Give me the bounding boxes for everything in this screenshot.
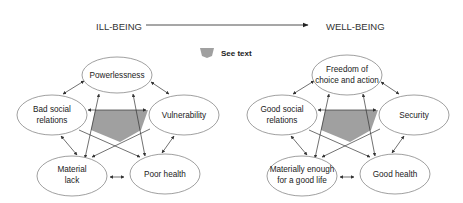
node-materially-enough-line2: for a good life <box>277 176 327 185</box>
node-good-social-line2: relations <box>267 116 298 125</box>
node-freedom-line2: choice and action <box>315 76 379 85</box>
node-poor-health: Poor health <box>144 170 186 179</box>
ill-being-group: Powerlessness Bad social relations Vulne… <box>17 57 219 196</box>
pentagon-swatch-icon <box>200 48 214 58</box>
node-bad-social-line1: Bad social <box>33 105 71 114</box>
node-good-health: Good health <box>373 170 418 179</box>
node-material-line1: Material <box>57 165 86 174</box>
node-material-line2: lack <box>65 176 80 185</box>
node-freedom-line1: Freedom of <box>326 65 369 74</box>
node-security: Security <box>399 111 429 120</box>
well-being-label: WELL-BEING <box>326 21 385 32</box>
node-vulnerability: Vulnerability <box>162 111 207 120</box>
node-bad-social-line2: relations <box>37 116 68 125</box>
wellbeing-diagram: ILL-BEING WELL-BEING See text Power <box>0 0 463 203</box>
ill-being-label: ILL-BEING <box>96 21 142 32</box>
node-good-social-line1: Good social <box>260 105 303 114</box>
legend-label: See text <box>221 49 252 58</box>
legend: See text <box>200 48 252 58</box>
node-powerlessness: Powerlessness <box>89 71 144 80</box>
node-materially-enough-line1: Materially enough <box>270 165 335 174</box>
well-being-group: Freedom of choice and action Good social… <box>247 55 449 196</box>
